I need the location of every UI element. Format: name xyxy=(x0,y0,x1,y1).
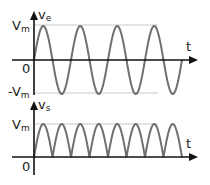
top-t-axis-arrow-icon xyxy=(189,56,198,64)
top-vmin-label: -Vm xyxy=(8,85,30,100)
top-origin-label: 0 xyxy=(22,62,30,75)
top-y-axis-label: ve xyxy=(38,8,51,23)
top-vmax-label: Vm xyxy=(12,19,30,34)
bottom-y-axis-label: vs xyxy=(38,98,50,113)
bottom-origin-label: 0 xyxy=(22,160,30,173)
top-v-axis-arrow-icon xyxy=(30,11,38,20)
top-x-axis-label: t xyxy=(186,40,191,53)
output-rectified-wave xyxy=(34,124,182,157)
bottom-x-axis-label: t xyxy=(186,137,191,150)
top-plot xyxy=(12,11,198,95)
bottom-v-axis-arrow-icon xyxy=(30,101,38,110)
bottom-t-axis-arrow-icon xyxy=(189,153,198,161)
diagram-canvas xyxy=(0,0,210,185)
bottom-vmax-label: Vm xyxy=(12,118,30,133)
rectifier-diagram: ve Vm 0 -Vm t vs Vm 0 t xyxy=(0,0,210,185)
